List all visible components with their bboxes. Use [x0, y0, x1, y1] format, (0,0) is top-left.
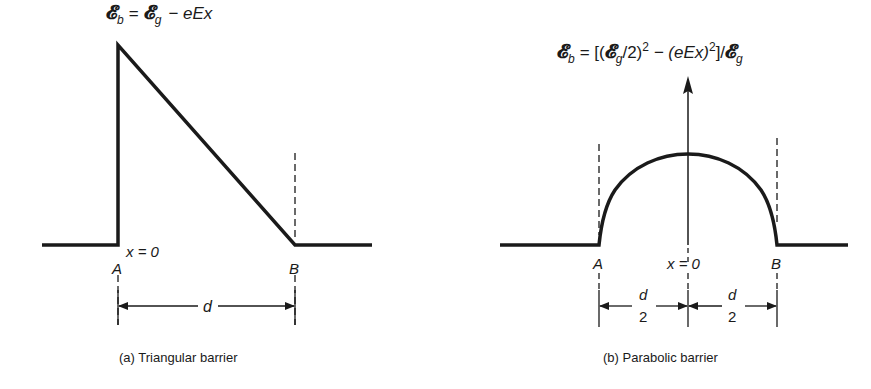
caption-b: (b) Parabolic barrier — [603, 350, 719, 365]
right-half-denominator: 2 — [728, 308, 736, 325]
parabolic-barrier-figure: 𝓔b= [(𝓔g/2)2 − (eEx)2]/𝓔g A x = 0 B d 2 … — [500, 40, 848, 365]
triangular-barrier-curve — [42, 45, 372, 245]
barrier-diagram: 𝓔b=𝓔g− eEx x = 0 A B d (a) Triangular ba… — [0, 0, 871, 389]
point-a-label: A — [592, 255, 603, 272]
triangular-barrier-figure: 𝓔b=𝓔g− eEx x = 0 A B d (a) Triangular ba… — [42, 1, 372, 365]
right-half-numerator: d — [728, 286, 737, 303]
parabolic-barrier-curve — [500, 154, 848, 245]
point-b-label: B — [289, 260, 299, 277]
origin-label: x = 0 — [125, 243, 160, 260]
width-label: d — [203, 298, 213, 315]
point-a-label: A — [111, 260, 122, 277]
left-half-numerator: d — [639, 286, 648, 303]
point-b-label: B — [771, 255, 781, 272]
caption-a: (a) Triangular barrier — [119, 350, 238, 365]
parabolic-equation: 𝓔b= [(𝓔g/2)2 − (eEx)2]/𝓔g — [557, 40, 743, 66]
left-half-denominator: 2 — [639, 308, 647, 325]
origin-label: x = 0 — [666, 255, 701, 272]
triangular-equation: 𝓔b=𝓔g− eEx — [106, 1, 213, 27]
